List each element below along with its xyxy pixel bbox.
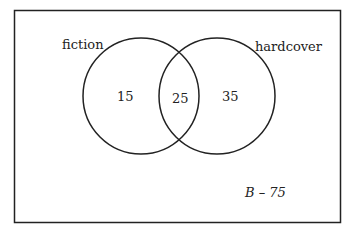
hardcover-only-value: 35 (222, 89, 239, 104)
hardcover-label: hardcover (255, 39, 323, 54)
outside-label: B – 75 (244, 185, 286, 200)
intersection-value: 25 (172, 91, 189, 106)
venn-diagram: fiction hardcover 15 25 35 B – 75 (0, 0, 354, 233)
fiction-label: fiction (62, 37, 104, 52)
fiction-only-value: 15 (117, 89, 134, 104)
